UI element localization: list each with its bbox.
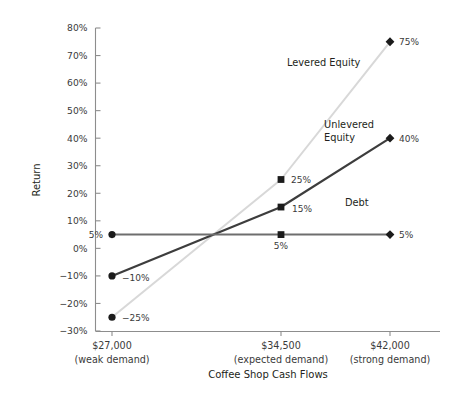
series-label-unlevered-equity: Unlevered — [324, 119, 374, 130]
x-tick-label-scenario: (expected demand) — [234, 354, 328, 365]
data-point-marker — [108, 314, 115, 321]
series-label-levered-equity: Levered Equity — [287, 57, 360, 68]
data-point-label: 15% — [292, 204, 312, 214]
data-point-marker — [108, 272, 115, 279]
data-point-label: 25% — [291, 175, 311, 185]
y-tick-label: −30% — [59, 325, 87, 336]
y-tick-label: 10% — [67, 215, 88, 226]
data-point-marker — [386, 230, 395, 239]
x-tick-label-scenario: (weak demand) — [74, 354, 149, 365]
y-axis-ticks: 80%70%60%50%40%30%20%10%0%−10%−20%−30% — [59, 22, 100, 336]
series-label-debt: Debt — [345, 197, 369, 208]
point-labels-group: −25%25%75%−10%15%40%5%5%5% — [89, 37, 420, 323]
y-axis-title: Return — [31, 163, 42, 196]
x-axis-title: Coffee Shop Cash Flows — [208, 369, 328, 380]
x-tick-labels-group: $27,000(weak demand)$34,500(expected dem… — [74, 340, 430, 365]
y-tick-label: 0% — [73, 243, 88, 254]
chart-container: 80%70%60%50%40%30%20%10%0%−10%−20%−30% −… — [0, 0, 463, 405]
y-tick-label: 50% — [67, 105, 88, 116]
data-point-label: −10% — [122, 273, 150, 283]
y-tick-label: −10% — [59, 270, 87, 281]
y-tick-label: 20% — [67, 188, 88, 199]
y-tick-label: 80% — [67, 22, 88, 33]
data-point-marker — [108, 231, 115, 238]
y-tick-label: 70% — [67, 50, 88, 61]
data-point-label: 75% — [399, 37, 419, 47]
data-point-marker — [278, 176, 285, 183]
data-point-label: 5% — [274, 241, 289, 251]
data-point-label: 5% — [89, 230, 104, 240]
x-tick-label-scenario: (strong demand) — [350, 354, 430, 365]
series-lines-group — [112, 42, 390, 317]
y-tick-label: 30% — [67, 160, 88, 171]
x-tick-label-value: $27,000 — [92, 340, 132, 351]
y-tick-label: 40% — [67, 133, 88, 144]
data-point-label: 5% — [399, 230, 414, 240]
data-point-marker — [278, 231, 285, 238]
y-tick-label: −20% — [59, 298, 87, 309]
y-tick-label: 60% — [67, 77, 88, 88]
series-line-levered-equity — [112, 42, 390, 317]
data-point-marker — [278, 204, 285, 211]
return-vs-cashflow-chart: 80%70%60%50%40%30%20%10%0%−10%−20%−30% −… — [0, 0, 463, 405]
series-markers-group — [108, 37, 394, 320]
series-label-unlevered-equity-line2: Equity — [324, 132, 355, 143]
data-point-label: 40% — [399, 134, 419, 144]
x-tick-label-value: $34,500 — [261, 340, 301, 351]
x-tick-label-value: $42,000 — [370, 340, 410, 351]
data-point-label: −25% — [122, 313, 150, 323]
